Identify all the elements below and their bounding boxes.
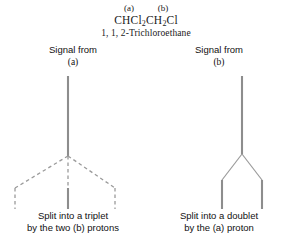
signal-b-title: Signal from	[195, 44, 243, 55]
triplet-caption-line2: by the two (b) protons	[0, 222, 146, 234]
signal-b-proton: (b)	[146, 56, 292, 68]
triplet-branch-left	[15, 156, 68, 188]
doublet-caption-line1: Split into a doublet	[146, 210, 292, 222]
proton-labels-row: (a)(b)	[0, 2, 292, 14]
triplet-caption-line1: Split into a triplet	[0, 210, 146, 222]
triplet-caption: Split into a triplet by the two (b) prot…	[0, 210, 146, 234]
formula-segment-3: Cl	[167, 14, 178, 26]
signal-b-label: Signal from (b)	[146, 44, 292, 68]
panel-signal-a: Signal from (a) Split into a triplet by …	[0, 44, 146, 236]
triplet-tree-plot	[0, 70, 146, 210]
doublet-tree-plot	[146, 70, 292, 210]
doublet-branch-right	[242, 154, 262, 180]
doublet-caption: Split into a doublet by the (a) proton	[146, 210, 292, 234]
formula-subscript-1: 2	[142, 19, 146, 28]
chemical-formula: CHCl2CH2Cl	[0, 14, 292, 27]
compound-name: 1, 1, 2-Trichloroethane	[0, 27, 292, 39]
formula-segment-1: CHCl	[114, 14, 142, 26]
molecule-header: (a)(b) CHCl2CH2Cl 1, 1, 2-Trichloroethan…	[0, 2, 292, 39]
doublet-branch-left	[222, 154, 242, 180]
signal-a-label: Signal from (a)	[0, 44, 146, 68]
panel-signal-b: Signal from (b) Split into a doublet by …	[146, 44, 292, 236]
triplet-branch-right	[68, 156, 115, 188]
signal-a-title: Signal from	[49, 44, 97, 55]
nmr-splitting-diagram: (a)(b) CHCl2CH2Cl 1, 1, 2-Trichloroethan…	[0, 0, 292, 236]
signal-a-proton: (a)	[0, 56, 146, 68]
proton-label-b: (b)	[146, 2, 180, 14]
proton-label-a: (a)	[112, 2, 146, 14]
formula-segment-2: CH	[146, 14, 162, 26]
formula-subscript-2: 2	[162, 19, 166, 28]
doublet-caption-line2: by the (a) proton	[146, 222, 292, 234]
